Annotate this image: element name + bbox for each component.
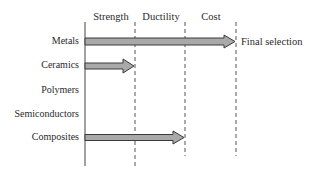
row-label-composites: Composites: [32, 131, 79, 142]
column-header-ductility: Ductility: [136, 11, 186, 22]
row-label-semiconductors: Semiconductors: [15, 108, 79, 119]
row-label-polymers: Polymers: [41, 84, 79, 95]
final-selection-label: Final selection: [241, 36, 303, 47]
column-header-strength: Strength: [86, 11, 136, 22]
material-selection-diagram: Strength Ductility Cost Metals Ceramics …: [0, 0, 311, 172]
row-label-metals: Metals: [52, 35, 79, 46]
row-label-ceramics: Ceramics: [41, 59, 79, 70]
column-header-cost: Cost: [186, 11, 236, 22]
metals-arrow: [85, 35, 235, 48]
ceramics-arrow: [85, 59, 134, 73]
